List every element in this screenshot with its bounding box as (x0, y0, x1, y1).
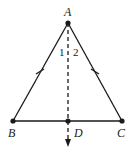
isosceles-triangle-diagram: A B C D 1 2 (0, 0, 135, 152)
point-d (65, 118, 70, 123)
point-b (10, 118, 15, 123)
point-a (65, 20, 70, 25)
segment-ab (13, 23, 68, 121)
angle-label-2: 2 (73, 46, 79, 58)
label-b: B (8, 126, 16, 140)
arrowhead-icon (65, 139, 71, 147)
angle-label-1: 1 (59, 46, 65, 58)
label-a: A (63, 5, 72, 19)
label-d: D (73, 126, 83, 140)
point-c (119, 118, 124, 123)
label-c: C (117, 126, 126, 140)
